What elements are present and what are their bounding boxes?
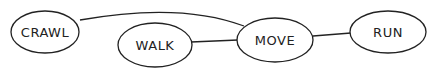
- node-crawl: CRAWL: [11, 11, 79, 53]
- edge-walk-move: [191, 40, 238, 42]
- node-label-run: RUN: [373, 25, 403, 40]
- node-label-walk: WALK: [136, 38, 175, 53]
- node-run: RUN: [350, 11, 426, 53]
- node-move: MOVE: [237, 18, 313, 62]
- node-label-crawl: CRAWL: [21, 25, 70, 40]
- concept-diagram: CRAWL WALK MOVE RUN: [0, 0, 441, 74]
- node-label-move: MOVE: [255, 33, 295, 48]
- edge-move-run: [313, 33, 351, 36]
- node-walk: WALK: [118, 23, 192, 67]
